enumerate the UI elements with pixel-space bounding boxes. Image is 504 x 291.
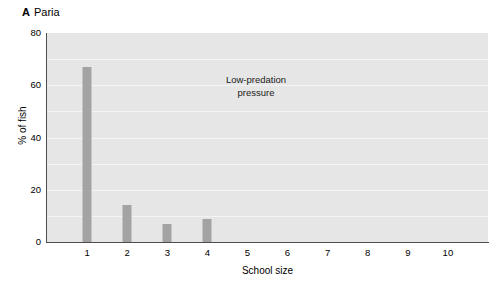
gridline [47,164,488,165]
x-axis-tick-label: 7 [308,247,348,258]
x-axis-tick-label: 4 [187,247,227,258]
bar [203,219,212,243]
bar [83,67,92,242]
gridline [47,216,488,217]
bar [163,224,172,242]
gridline [47,59,488,60]
x-axis-line [47,242,489,243]
gridline [47,138,488,139]
figure-panel-a: AParia 020406080 12345678910 % of fish S… [0,0,504,291]
x-axis-tick-label: 10 [428,247,468,258]
annotation-line-1: Low-predation [200,73,312,86]
annotation-line-2: pressure [200,86,312,99]
x-axis-tick-label: 6 [268,247,308,258]
plot-area [47,33,488,242]
bar [123,205,132,242]
x-axis-title: School size [47,265,488,277]
x-axis-tick-label: 5 [228,247,268,258]
x-axis-tick-label: 2 [107,247,147,258]
y-axis-tick-label: 20 [0,185,41,195]
gridline [47,111,488,112]
y-axis-tick-label: 0 [0,237,41,247]
x-axis-tick-label: 3 [147,247,187,258]
x-axis-tick-label: 1 [67,247,107,258]
gridline [47,190,488,191]
y-axis-title: % of fish [17,76,28,176]
y-axis-tick-label: 80 [0,28,41,38]
y-axis-line [46,33,47,243]
x-axis-tick-label: 8 [348,247,388,258]
chart-annotation: Low-predation pressure [200,73,312,99]
x-axis-tick-label: 9 [388,247,428,258]
